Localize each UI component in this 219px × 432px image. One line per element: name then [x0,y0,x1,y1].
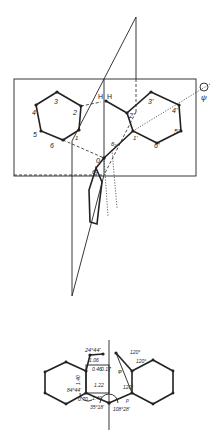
angle-label: 120° [136,358,146,364]
distance-label: 1.22 [94,382,104,388]
atom-label-1: 1 [75,135,78,141]
misc-label: φ [118,368,122,374]
distance-label: 0.17 [101,366,111,372]
distance-label: 0.70 [78,396,88,402]
distance-label: 1.40 [92,395,102,401]
angle-label: 24°44' [84,347,101,353]
distance-label: 1.06 [89,357,99,363]
angle-label: 35°18' [90,404,105,410]
atom-label-62: 6₂ [111,141,117,147]
hydrogen-label: H [98,93,103,100]
atom-label-5p: 5' [174,128,180,135]
angle-label: 84°44' [67,387,82,393]
atom-label-2: 2 [72,109,77,116]
atom-label-1p: 1' [133,135,138,141]
horizontal-plane [14,79,196,176]
angle-label: 120° [123,384,133,390]
distance-label: 1.40 [75,375,81,385]
angle-label: 108°28' [113,406,131,412]
hydrogen-label: H [107,93,112,100]
atom-label-2p: 2' [128,112,135,119]
atom-label-3p: 3' [148,98,154,105]
atom-label-4: 4 [32,109,36,116]
atom-label-5: 5 [33,131,37,138]
psi-axis-symbol: ψ [201,93,207,102]
origin-label: 0 [96,157,100,164]
left-phenyl-ring [36,92,81,140]
atom-label-6p: 6' [154,142,160,149]
biphenyl-geometry-diagram: 3 2 4 5 6 1 H H 3' 2' 4' 5' 6' 1' ψ 0 6₁… [0,0,219,432]
angle-label: 120° [130,349,140,355]
bottom-geometry-diagram: 24°44' 1.06 1.40 0.46 0.17 1.22 84°44' 0… [44,340,175,430]
atom-label-6: 6 [50,142,54,149]
atom-label-3: 3 [54,98,58,105]
misc-label: p [125,397,129,403]
atom-label-4p: 4' [172,107,178,114]
atom-label-61: 6₁ [92,169,97,175]
